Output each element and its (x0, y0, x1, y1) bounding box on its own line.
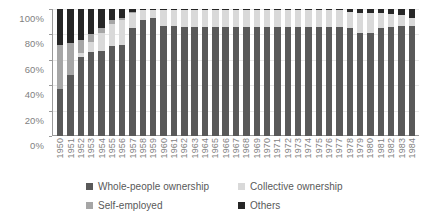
y-axis: 100%80%60%40%20%0% (0, 9, 48, 136)
y-axis-tick-label: 60% (25, 63, 44, 74)
y-axis-tickmark (49, 85, 52, 86)
bar-column[interactable] (138, 9, 148, 136)
bar-column[interactable] (117, 9, 127, 136)
bar-column[interactable] (262, 9, 272, 136)
bar-column[interactable] (407, 9, 417, 136)
x-axis-tick: 1965 (210, 137, 220, 173)
legend-item-collective-ownership[interactable]: Collective ownership (238, 177, 343, 195)
bar-segment (98, 33, 104, 51)
bar-column[interactable] (148, 9, 158, 136)
x-axis: 1950195119521953195419551956195719581959… (52, 137, 419, 173)
x-axis-tick: 1952 (76, 137, 86, 173)
bar-stack (409, 9, 415, 136)
bar-stack (129, 9, 135, 136)
bar-segment (347, 28, 353, 136)
x-axis-tick-label: 1981 (376, 138, 386, 158)
bar-column[interactable] (96, 9, 106, 136)
x-axis-tick: 1954 (96, 137, 106, 173)
x-axis-tick: 1983 (396, 137, 406, 173)
bar-column[interactable] (127, 9, 137, 136)
bar-column[interactable] (355, 9, 365, 136)
x-axis-tick: 1955 (107, 137, 117, 173)
bar-column[interactable] (200, 9, 210, 136)
bar-segment (67, 75, 73, 136)
bar-segment (326, 27, 332, 136)
x-axis-tick-label: 1950 (55, 138, 65, 158)
bar-column[interactable] (210, 9, 220, 136)
legend-label: Others (250, 200, 280, 211)
bar-column[interactable] (65, 9, 75, 136)
bar-stack (254, 9, 260, 136)
bar-segment (78, 40, 84, 54)
bar-column[interactable] (231, 9, 241, 136)
x-axis-tick-label: 1964 (200, 138, 210, 158)
x-axis-tick-label: 1971 (272, 138, 282, 158)
bar-segment (222, 10, 228, 27)
bar-column[interactable] (272, 9, 282, 136)
bar-column[interactable] (303, 9, 313, 136)
y-axis-tickmark (49, 9, 52, 10)
bar-segment (316, 10, 322, 27)
bar-column[interactable] (158, 9, 168, 136)
bar-segment (119, 20, 125, 44)
bar-column[interactable] (76, 9, 86, 136)
x-axis-tick-label: 1966 (221, 138, 231, 158)
x-axis-tick-label: 1979 (355, 138, 365, 158)
bar-segment (212, 27, 218, 136)
y-axis-tickmark (49, 60, 52, 61)
bar-column[interactable] (169, 9, 179, 136)
x-axis-tick: 1964 (200, 137, 210, 173)
bar-column[interactable] (345, 9, 355, 136)
bar-segment (67, 43, 73, 75)
bar-segment (119, 45, 125, 136)
bar-segment (409, 18, 415, 26)
bar-stack (347, 9, 353, 136)
bar-segment (140, 20, 146, 136)
bar-column[interactable] (189, 9, 199, 136)
x-axis-tick-label: 1955 (107, 138, 117, 158)
x-axis-tick-label: 1977 (334, 138, 344, 158)
bar-column[interactable] (55, 9, 65, 136)
bar-column[interactable] (365, 9, 375, 136)
legend-label: Self-employed (98, 200, 163, 211)
bar-segment (243, 10, 249, 27)
bar-segment (78, 9, 84, 39)
bar-segment (57, 45, 63, 89)
bar-column[interactable] (293, 9, 303, 136)
x-axis-tick-label: 1953 (86, 138, 96, 158)
x-axis-tick-label: 1967 (231, 138, 241, 158)
bar-column[interactable] (252, 9, 262, 136)
bar-segment (150, 10, 156, 18)
bar-segment (285, 27, 291, 136)
bar-segment (88, 42, 94, 52)
bar-column[interactable] (179, 9, 189, 136)
bar-segment (409, 26, 415, 136)
x-axis-tick-label: 1975 (314, 138, 324, 158)
bar-column[interactable] (221, 9, 231, 136)
x-axis-tick-label: 1968 (241, 138, 251, 158)
bar-column[interactable] (396, 9, 406, 136)
bar-column[interactable] (334, 9, 344, 136)
x-axis-tick-label: 1962 (179, 138, 189, 158)
bar-stack (202, 9, 208, 136)
bar-column[interactable] (314, 9, 324, 136)
bar-column[interactable] (241, 9, 251, 136)
bar-segment (357, 13, 363, 33)
bar-column[interactable] (107, 9, 117, 136)
bar-column[interactable] (376, 9, 386, 136)
legend-item-whole-people-ownership[interactable]: Whole-people ownership (86, 177, 238, 195)
x-axis-tick: 1951 (65, 137, 75, 173)
bar-column[interactable] (386, 9, 396, 136)
bar-column[interactable] (283, 9, 293, 136)
legend-item-others[interactable]: Others (238, 196, 280, 214)
y-axis-tick-label: 20% (25, 114, 44, 125)
x-axis-tick-label: 1957 (128, 138, 138, 158)
legend-item-self-employed[interactable]: Self-employed (86, 196, 238, 214)
x-axis-tick-label: 1982 (386, 138, 396, 158)
bar-column[interactable] (86, 9, 96, 136)
x-axis-tick: 1953 (86, 137, 96, 173)
bar-segment (336, 10, 342, 27)
x-axis-tick: 1978 (345, 137, 355, 173)
x-axis-tick-label: 1959 (148, 138, 158, 158)
bar-column[interactable] (324, 9, 334, 136)
